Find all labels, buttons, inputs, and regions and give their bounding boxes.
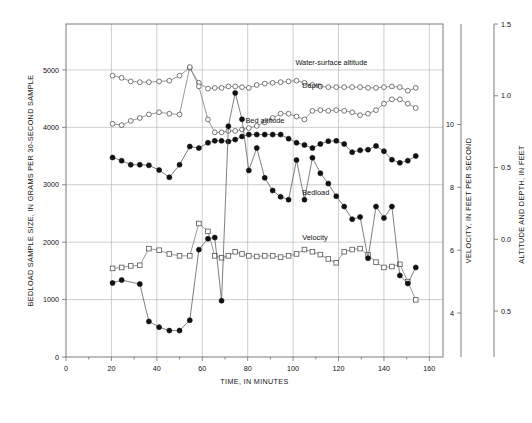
y-axis-title-left: BEDLOAD SAMPLE SIZE, IN GRAMS PER 30-SEC… bbox=[26, 75, 35, 307]
data-point bbox=[146, 112, 151, 117]
data-point bbox=[310, 146, 315, 151]
data-point bbox=[278, 80, 283, 85]
data-point bbox=[187, 318, 192, 323]
data-point bbox=[334, 108, 339, 113]
data-point bbox=[177, 112, 182, 117]
data-point bbox=[397, 85, 402, 90]
data-point bbox=[342, 108, 347, 113]
data-point bbox=[382, 85, 387, 90]
data-point bbox=[196, 146, 201, 151]
data-point bbox=[147, 246, 152, 251]
data-point bbox=[366, 111, 371, 116]
data-point bbox=[413, 298, 418, 303]
data-point bbox=[157, 110, 162, 115]
data-point bbox=[262, 254, 267, 259]
data-point bbox=[278, 132, 283, 137]
data-point bbox=[233, 249, 238, 254]
data-point bbox=[246, 126, 251, 131]
xtick-label: 120 bbox=[333, 364, 345, 373]
data-point bbox=[294, 78, 299, 83]
data-point bbox=[233, 129, 238, 134]
bedload-transport-chart: 020406080100120140160TIME, IN MINUTES010… bbox=[0, 0, 532, 423]
data-point bbox=[334, 138, 339, 143]
data-point bbox=[262, 175, 267, 180]
data-point bbox=[177, 328, 182, 333]
data-point bbox=[350, 110, 355, 115]
data-point bbox=[390, 264, 395, 269]
data-point bbox=[128, 264, 133, 269]
data-point bbox=[226, 139, 231, 144]
data-point bbox=[119, 158, 124, 163]
xtick-label: 0 bbox=[64, 364, 68, 373]
data-point bbox=[247, 254, 252, 259]
ytick-label-left: 1000 bbox=[43, 295, 59, 304]
data-point bbox=[196, 247, 201, 252]
data-point bbox=[382, 265, 387, 270]
data-point bbox=[177, 73, 182, 78]
data-point bbox=[326, 108, 331, 113]
data-point bbox=[246, 85, 251, 90]
data-point bbox=[128, 118, 133, 123]
ytick-label-velocity: 10 bbox=[446, 120, 454, 129]
data-point bbox=[278, 255, 283, 260]
data-point bbox=[350, 150, 355, 155]
data-point bbox=[302, 247, 307, 252]
data-point bbox=[294, 114, 299, 119]
data-point bbox=[119, 75, 124, 80]
data-point bbox=[206, 117, 211, 122]
data-point bbox=[382, 101, 387, 106]
data-point bbox=[310, 249, 315, 254]
data-point bbox=[270, 80, 275, 85]
data-point bbox=[405, 88, 410, 93]
data-point bbox=[128, 162, 133, 167]
series-label-depth: Depth bbox=[302, 81, 322, 90]
data-point bbox=[128, 79, 133, 84]
data-point bbox=[381, 216, 386, 221]
data-point bbox=[389, 204, 394, 209]
data-point bbox=[254, 254, 259, 259]
data-point bbox=[334, 260, 339, 265]
data-point bbox=[342, 204, 347, 209]
ytick-label-left: 4000 bbox=[43, 123, 59, 132]
data-point bbox=[389, 157, 394, 162]
data-point bbox=[334, 194, 339, 199]
data-point bbox=[233, 90, 238, 95]
data-point bbox=[318, 171, 323, 176]
data-point bbox=[374, 260, 379, 265]
data-point bbox=[358, 214, 363, 219]
data-point bbox=[167, 175, 172, 180]
xtick-label: 100 bbox=[287, 364, 299, 373]
data-point bbox=[137, 162, 142, 167]
data-point bbox=[157, 248, 162, 253]
data-point bbox=[350, 217, 355, 222]
data-point bbox=[374, 108, 379, 113]
data-point bbox=[119, 123, 124, 128]
chart-canvas: 020406080100120140160TIME, IN MINUTES010… bbox=[0, 0, 532, 423]
data-point bbox=[212, 235, 217, 240]
data-point bbox=[187, 144, 192, 149]
data-point bbox=[240, 117, 245, 122]
data-point bbox=[110, 155, 115, 160]
ytick-label-altitude: 0.0 bbox=[501, 235, 511, 244]
data-point bbox=[167, 78, 172, 83]
data-point bbox=[157, 79, 162, 84]
data-point bbox=[196, 84, 201, 89]
data-point bbox=[110, 121, 115, 126]
series-label-water-surface-altitude: Water-surface altitude bbox=[295, 58, 367, 67]
data-point bbox=[374, 143, 379, 148]
data-point bbox=[342, 85, 347, 90]
xtick-label: 160 bbox=[423, 364, 435, 373]
data-point bbox=[219, 130, 224, 135]
data-point bbox=[405, 281, 410, 286]
data-point bbox=[413, 265, 418, 270]
data-point bbox=[157, 325, 162, 330]
data-point bbox=[270, 188, 275, 193]
ytick-label-altitude: 1.0 bbox=[501, 91, 511, 100]
data-point bbox=[226, 84, 231, 89]
data-point bbox=[390, 97, 395, 102]
data-point bbox=[413, 153, 418, 158]
xtick-label: 140 bbox=[378, 364, 390, 373]
data-point bbox=[219, 138, 224, 143]
data-point bbox=[318, 142, 323, 147]
data-point bbox=[318, 252, 323, 257]
